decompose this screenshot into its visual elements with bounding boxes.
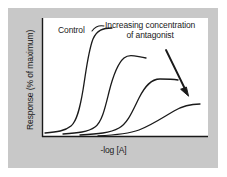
y-axis-title: Response (% of maximum) <box>26 30 35 130</box>
x-axis-title: -log [A] <box>0 146 227 155</box>
antagonist-annotation-line1: Increasing concentration <box>105 20 195 30</box>
antagonist-annotation-line2: of antagonist <box>105 31 195 41</box>
figure-root: Response (% of maximum) -log [A] Control… <box>0 0 227 177</box>
control-curve-label: Control <box>58 26 85 36</box>
antagonist-annotation: Increasing concentration of antagonist <box>105 21 195 41</box>
